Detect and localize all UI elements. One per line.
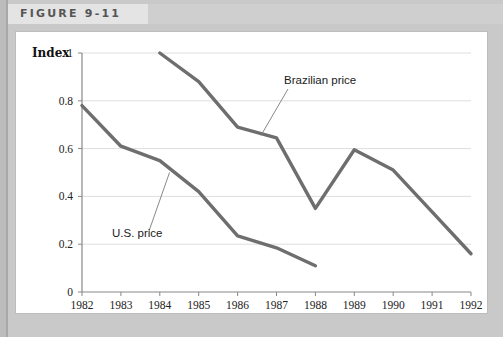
y-tick-label: 0 — [67, 286, 73, 298]
figure-root: FIGURE 9-11 10.80.60.40.20 1982198319841… — [0, 0, 503, 337]
page-bottom-bleed — [16, 322, 486, 334]
tick-marks — [78, 53, 471, 296]
annotation-label-brazilian-price: Brazilian price — [284, 74, 356, 86]
x-tick-label: 1989 — [343, 299, 366, 311]
x-tick-label: 1982 — [71, 299, 94, 311]
x-axis-tick-labels: 1982198319841985198619871988198919901991… — [71, 299, 483, 311]
x-tick-label: 1990 — [382, 299, 405, 311]
x-tick-label: 1987 — [265, 299, 288, 311]
figure-number-label: FIGURE 9-11 — [20, 7, 121, 20]
y-tick-label: 0.4 — [59, 190, 74, 202]
series-line-us-price — [82, 106, 315, 266]
y-axis-title: Index — [32, 46, 70, 60]
y-axis-tick-labels: 10.80.60.40.20 — [59, 47, 74, 298]
figure-banner: FIGURE 9-11 — [8, 4, 503, 24]
y-tick-label: 0.8 — [59, 95, 74, 107]
annotation-leader-lines — [149, 89, 288, 231]
y-tick-label: 0.2 — [59, 238, 74, 250]
y-tick-label: 0.6 — [59, 143, 74, 155]
line-chart: 10.80.60.40.20 1982198319841985198619871… — [16, 32, 489, 315]
x-tick-label: 1992 — [460, 299, 483, 311]
page-left-edge-shadow — [6, 0, 8, 337]
gridlines — [82, 53, 471, 244]
annotation-label-us-price: U.S. price — [112, 227, 163, 239]
x-tick-label: 1988 — [304, 299, 327, 311]
chart-card: 10.80.60.40.20 1982198319841985198619871… — [15, 31, 488, 314]
axes — [82, 53, 471, 292]
x-tick-label: 1986 — [226, 299, 249, 311]
x-tick-label: 1991 — [421, 299, 444, 311]
x-tick-label: 1984 — [148, 299, 171, 311]
x-tick-label: 1983 — [109, 299, 132, 311]
x-tick-label: 1985 — [187, 299, 210, 311]
